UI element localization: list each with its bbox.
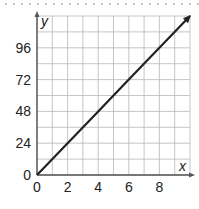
svg-text:72: 72: [15, 72, 31, 88]
svg-text:8: 8: [156, 179, 164, 195]
svg-text:2: 2: [64, 179, 72, 195]
svg-text:24: 24: [15, 135, 31, 151]
svg-text:0: 0: [23, 167, 31, 183]
line-chart: 02468024487296 x y: [0, 0, 199, 209]
svg-text:4: 4: [94, 179, 102, 195]
svg-text:48: 48: [15, 103, 31, 119]
data-line: [37, 15, 191, 175]
svg-text:6: 6: [125, 179, 133, 195]
x-axis-label: x: [178, 158, 187, 174]
svg-text:0: 0: [33, 179, 41, 195]
y-axis-label: y: [40, 13, 49, 29]
svg-text:96: 96: [15, 40, 31, 56]
